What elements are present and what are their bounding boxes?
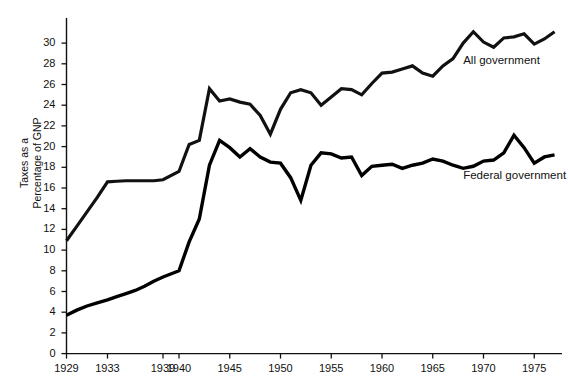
y-axis-tick-label: 10	[32, 243, 56, 255]
x-axis-tick-label: 1975	[514, 362, 554, 374]
x-axis-tick-label: 1960	[362, 362, 402, 374]
y-axis-tick-label: 20	[32, 140, 56, 152]
series-label-federal-government: Federal government	[463, 169, 566, 181]
x-axis-tick-label: 1929	[47, 362, 87, 374]
y-axis-tick-label: 18	[32, 160, 56, 172]
y-axis-tick-label: 4	[32, 305, 56, 317]
y-axis-tick-label: 2	[32, 326, 56, 338]
series-label-all-government: All government	[463, 54, 540, 66]
y-axis-tick-label: 26	[32, 78, 56, 90]
x-axis-tick-label: 1970	[464, 362, 504, 374]
y-axis-tick-label: 6	[32, 285, 56, 297]
y-axis-tick-label: 14	[32, 202, 56, 214]
y-axis-tick-label: 8	[32, 264, 56, 276]
series-line-federal-government	[67, 135, 555, 315]
x-axis-tick-label: 1955	[311, 362, 351, 374]
x-axis-tick-label: 1940	[159, 362, 199, 374]
y-axis-tick-label: 16	[32, 181, 56, 193]
chart-container: Taxes as a Percentage of GNP 02468101214…	[0, 0, 568, 385]
y-axis-tick-label: 22	[32, 119, 56, 131]
x-axis-tick-label: 1945	[210, 362, 250, 374]
y-axis-tick-label: 24	[32, 98, 56, 110]
y-axis-ticks	[62, 43, 67, 354]
x-axis-tick-label: 1965	[413, 362, 453, 374]
y-axis-tick-label: 12	[32, 222, 56, 234]
y-axis-tick-label: 30	[32, 36, 56, 48]
y-axis-tick-label: 28	[32, 57, 56, 69]
x-axis-tick-label: 1933	[88, 362, 128, 374]
x-axis-tick-label: 1950	[261, 362, 301, 374]
x-axis-ticks	[67, 354, 535, 359]
y-axis-tick-label: 0	[32, 347, 56, 359]
